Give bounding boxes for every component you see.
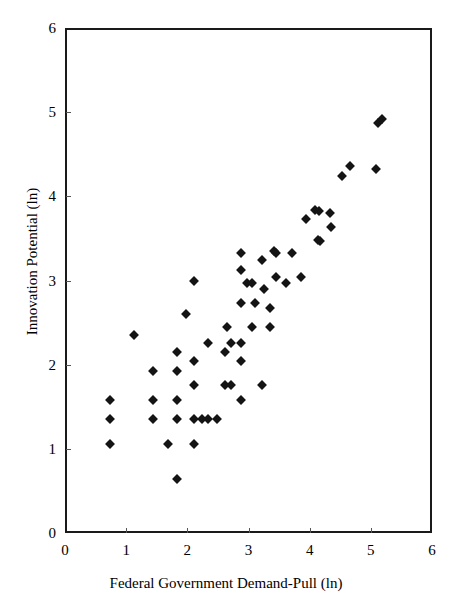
data-point	[203, 338, 213, 348]
data-point	[281, 278, 291, 288]
data-point	[236, 395, 246, 405]
data-point	[337, 171, 347, 181]
y-tick-label: 1	[36, 441, 56, 456]
data-point	[265, 322, 275, 332]
data-point	[105, 414, 115, 424]
data-point	[296, 272, 306, 282]
data-point	[236, 338, 246, 348]
plot-frame	[65, 28, 432, 533]
data-point	[236, 265, 246, 275]
y-tick-mark	[66, 112, 71, 113]
data-point	[148, 395, 158, 405]
y-tick-label: 0	[36, 526, 56, 541]
data-point	[172, 395, 182, 405]
data-point	[172, 474, 182, 484]
data-point	[189, 439, 199, 449]
data-point	[236, 356, 246, 366]
data-point	[257, 255, 267, 265]
x-tick-mark	[126, 528, 127, 533]
y-tick-label: 6	[36, 21, 56, 36]
x-tick-label: 5	[361, 543, 381, 558]
data-point	[212, 414, 222, 424]
data-point	[189, 276, 199, 286]
x-tick-mark	[310, 528, 311, 533]
data-point	[189, 356, 199, 366]
y-tick-mark	[66, 196, 71, 197]
data-point	[129, 330, 139, 340]
data-point	[265, 303, 275, 313]
data-point	[315, 236, 325, 246]
x-tick-mark	[187, 528, 188, 533]
x-tick-label: 4	[300, 543, 320, 558]
data-point	[105, 439, 115, 449]
scatter-plot-figure: 0123456 0123456 Federal Government Deman…	[0, 0, 452, 608]
y-tick-mark	[66, 281, 71, 282]
data-point	[189, 380, 199, 390]
data-point	[257, 380, 267, 390]
data-point	[148, 366, 158, 376]
data-point	[326, 222, 336, 232]
x-axis-title: Federal Government Demand-Pull (ln)	[0, 575, 452, 592]
data-point	[220, 347, 230, 357]
data-point	[271, 248, 281, 258]
data-point	[325, 209, 335, 219]
data-point	[172, 366, 182, 376]
data-point	[236, 248, 246, 258]
data-point	[226, 338, 236, 348]
data-point	[172, 347, 182, 357]
data-point	[301, 214, 311, 224]
y-tick-label: 5	[36, 105, 56, 120]
x-tick-label: 2	[177, 543, 197, 558]
data-point	[222, 322, 232, 332]
data-point	[163, 439, 173, 449]
data-point	[259, 284, 269, 294]
data-point	[345, 161, 355, 171]
data-point	[236, 298, 246, 308]
data-point	[247, 322, 257, 332]
x-tick-label: 1	[116, 543, 136, 558]
x-tick-label: 6	[422, 543, 442, 558]
data-point	[271, 272, 281, 282]
x-tick-label: 0	[55, 543, 75, 558]
data-point	[371, 164, 381, 174]
data-point	[172, 414, 182, 424]
data-point	[181, 309, 191, 319]
x-tick-mark	[249, 528, 250, 533]
data-point	[105, 395, 115, 405]
y-tick-mark	[66, 365, 71, 366]
x-tick-label: 3	[239, 543, 259, 558]
data-point	[226, 380, 236, 390]
x-tick-mark	[371, 528, 372, 533]
plot-area	[67, 30, 430, 531]
y-tick-mark	[66, 449, 71, 450]
data-point	[148, 414, 158, 424]
data-point	[250, 298, 260, 308]
data-point	[287, 248, 297, 258]
y-axis-title: Innovation Potential (ln)	[24, 132, 41, 392]
